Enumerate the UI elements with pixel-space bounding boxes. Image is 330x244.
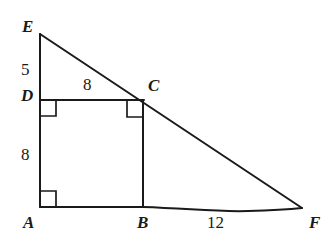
measure-label-BF: 12 (207, 214, 224, 231)
right-angle-marker-C (127, 101, 143, 117)
measure-label-ED: 5 (21, 61, 30, 78)
segment-EF (40, 34, 302, 208)
vertex-label-A: A (23, 214, 34, 231)
vertex-label-C: C (148, 77, 159, 94)
measure-label-DC: 8 (83, 76, 92, 93)
figure-canvas (0, 0, 330, 244)
vertex-label-E: E (22, 18, 33, 35)
measure-label-DA: 8 (21, 146, 30, 163)
vertex-label-F: F (309, 214, 320, 231)
vertex-label-D: D (21, 87, 33, 104)
vertex-label-B: B (137, 214, 148, 231)
right-angle-marker-D (40, 100, 56, 116)
segment-AF (40, 207, 302, 211)
geometry-figure: E D C A B F 5 8 8 12 (0, 0, 330, 244)
right-angle-marker-A (40, 191, 56, 207)
